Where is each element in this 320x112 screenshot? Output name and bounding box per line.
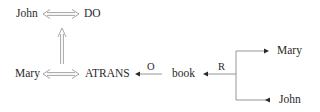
recipient-to-mary: Mary (277, 45, 302, 57)
object-case-label: O (147, 62, 155, 73)
object-book: book (172, 68, 195, 80)
two-way-arrow-john-do (43, 10, 79, 19)
causal-arrow-up (58, 28, 66, 64)
recipient-case-label: R (218, 62, 225, 73)
actor-mary: Mary (15, 68, 40, 80)
recipient-bracket (236, 51, 270, 100)
arrow-from-john (265, 98, 270, 103)
diagram-graphics (0, 0, 320, 112)
primitive-atrans: ATRANS (85, 68, 130, 80)
arrow-to-mary (264, 49, 269, 54)
recipient-from-john: John (279, 94, 301, 106)
two-way-arrow-mary-atrans (43, 70, 79, 79)
primitive-do: DO (84, 8, 101, 20)
actor-john-top: John (16, 8, 38, 20)
